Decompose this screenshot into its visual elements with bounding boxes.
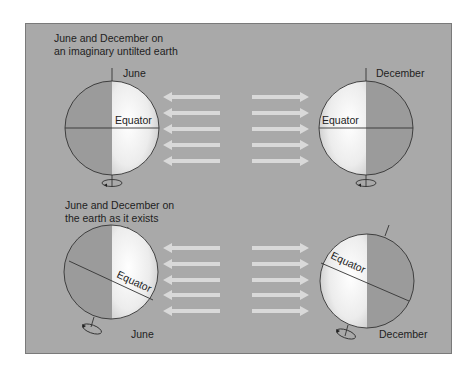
axis-top bbox=[385, 225, 389, 236]
month-label: June bbox=[123, 67, 146, 79]
globe-bottom-june: Equator June bbox=[64, 225, 159, 340]
night-side bbox=[367, 234, 414, 328]
equator-label: Equator bbox=[115, 114, 152, 126]
month-label: December bbox=[379, 328, 428, 340]
sunlight-arrows-top-right bbox=[252, 92, 309, 166]
day-side bbox=[320, 234, 367, 328]
caption-bottom-line1: June and December on bbox=[65, 199, 174, 211]
sunlight-arrows-bottom-right bbox=[252, 243, 309, 316]
globe-top-june: Equator June bbox=[65, 67, 159, 187]
caption-bottom-line2: the earth as it exists bbox=[65, 212, 158, 224]
caption-bottom: June and December onthe earth as it exis… bbox=[65, 199, 174, 224]
caption-top: June and December onan imaginary untilte… bbox=[54, 32, 178, 57]
month-label: June bbox=[131, 328, 154, 340]
globe-top-december: Equator December bbox=[319, 67, 425, 187]
night-side bbox=[64, 225, 112, 319]
equator-label: Equator bbox=[322, 114, 359, 126]
sunlight-arrows-top-left bbox=[163, 92, 220, 166]
globe-bottom-december: Equator December bbox=[320, 225, 428, 341]
month-label: December bbox=[376, 67, 425, 79]
caption-top-line1: June and December on bbox=[54, 32, 163, 44]
sunlight-arrows-bottom-left bbox=[163, 243, 220, 316]
caption-top-line2: an imaginary untilted earth bbox=[54, 45, 178, 57]
